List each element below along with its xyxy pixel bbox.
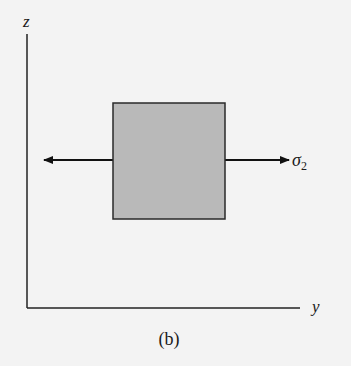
stress-element [113, 103, 225, 219]
z-axis-label: z [22, 12, 30, 31]
figure-caption: (b) [159, 329, 180, 350]
y-axis-label: y [310, 297, 320, 316]
stress-subscript: 2 [301, 159, 307, 173]
stress-diagram: z y σ2 (b) [0, 0, 351, 366]
stress-label: σ2 [292, 150, 307, 173]
